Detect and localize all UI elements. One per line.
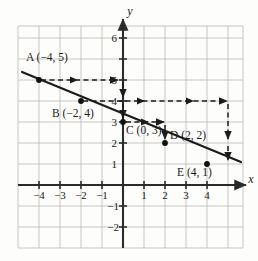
x-tick-label: −2 xyxy=(75,189,87,201)
point-label-c: C (0, 3) xyxy=(126,124,162,137)
y-tick-label: 1 xyxy=(112,158,118,170)
y-tick-label: 3 xyxy=(112,116,118,128)
point-b xyxy=(78,98,84,104)
point-d xyxy=(162,140,168,146)
point-label-a: A (−4, 5) xyxy=(26,51,68,64)
coordinate-plane-svg: −4 −3 −2 −1 1 2 3 4 6 5 4 3 2 1 −1 −2 y … xyxy=(0,0,258,261)
x-tick-label: −1 xyxy=(96,189,108,201)
point-label-b: B (−2, 4) xyxy=(52,107,94,120)
y-tick-label: −1 xyxy=(107,200,119,212)
coordinate-plane-figure: −4 −3 −2 −1 1 2 3 4 6 5 4 3 2 1 −1 −2 y … xyxy=(0,0,258,261)
x-axis-label: x xyxy=(247,172,254,186)
x-tick-label: 4 xyxy=(204,189,210,201)
y-tick-label: 4 xyxy=(112,95,118,107)
x-tick-label: 2 xyxy=(162,189,168,201)
y-axis-label: y xyxy=(126,4,133,18)
point-label-d: D (2, 2) xyxy=(170,129,206,142)
y-tick-label: 5 xyxy=(112,74,118,86)
y-tick-label: 2 xyxy=(112,137,118,149)
point-a xyxy=(36,77,42,83)
point-label-e: E (4, 1) xyxy=(177,166,212,179)
x-tick-label: 1 xyxy=(141,189,147,201)
y-tick-label: 6 xyxy=(112,32,118,44)
x-tick-label: −4 xyxy=(33,189,45,201)
x-tick-label: −3 xyxy=(54,189,66,201)
x-tick-label: 3 xyxy=(183,189,189,201)
y-tick-label: −2 xyxy=(107,221,119,233)
